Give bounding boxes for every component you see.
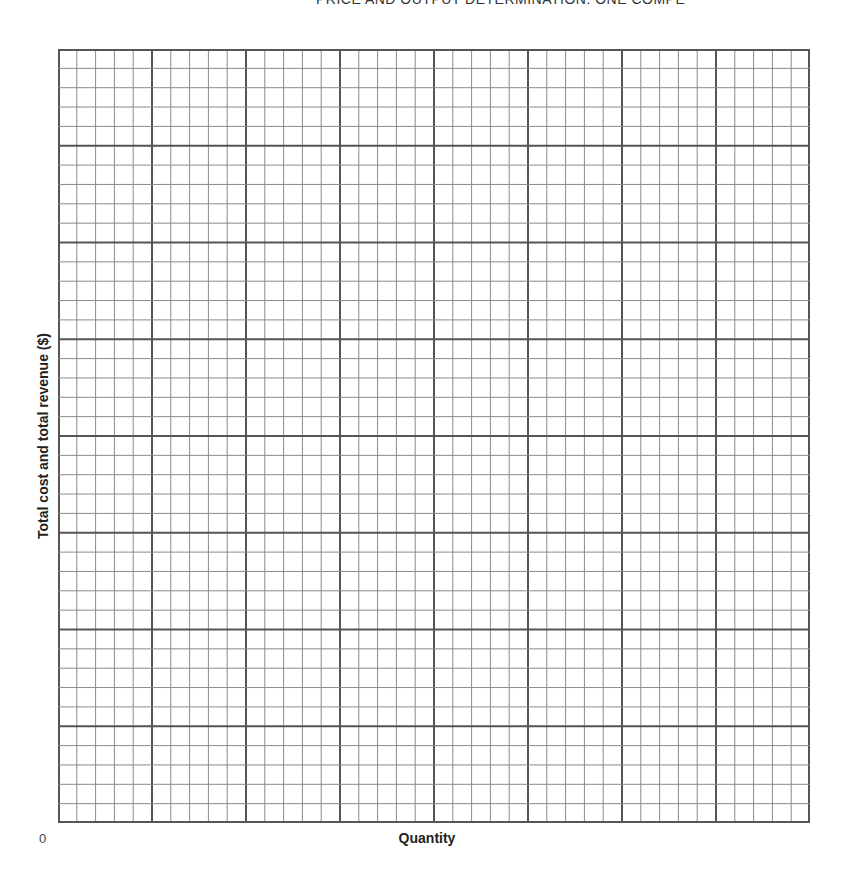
origin-label: 0: [39, 831, 46, 846]
running-header: PRICE AND OUTPUT DETERMINATION: ONE COMP…: [316, 0, 843, 7]
x-axis-label: Quantity: [399, 830, 456, 846]
grid-svg: [58, 49, 810, 823]
y-axis-label: Total cost and total revenue ($): [35, 333, 51, 539]
graph-paper-grid: [58, 49, 810, 823]
